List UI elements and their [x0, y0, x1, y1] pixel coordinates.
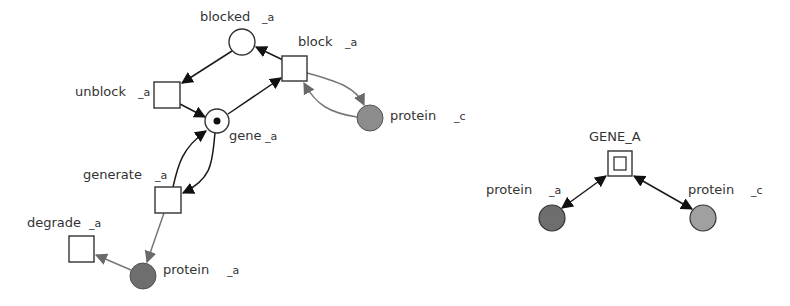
transition-suffix: _a — [137, 86, 150, 99]
token-icon — [214, 118, 221, 125]
place-label: gene — [229, 128, 262, 143]
transition-suffix: _a — [154, 169, 167, 182]
place-circle — [229, 29, 255, 55]
transition-generate-a[interactable]: generate _a — [83, 167, 181, 213]
transition-suffix: _a — [88, 217, 101, 230]
protein-node-protein-a[interactable]: protein _a — [486, 182, 565, 231]
arc-gene-to-generate — [183, 133, 215, 193]
place-blocked-a[interactable]: blocked _a — [200, 9, 274, 55]
gene-label: GENE_A — [589, 129, 641, 144]
petri-net-diagram: blocked _a gene _a protein _c protein _a… — [0, 0, 790, 306]
gene-node-gene-a[interactable]: GENE_A — [589, 129, 641, 176]
protein-label: protein — [486, 182, 532, 197]
place-suffix: _a — [264, 130, 277, 143]
place-label: protein — [390, 108, 436, 123]
place-protein-a[interactable]: protein _a — [130, 262, 239, 289]
transition-box — [69, 236, 94, 262]
transition-suffix: _a — [344, 36, 357, 49]
protein-node-protein-c[interactable]: protein _c — [688, 182, 763, 231]
place-label: protein — [163, 262, 209, 277]
place-suffix: _a — [226, 264, 239, 277]
transition-label: unblock — [75, 84, 126, 99]
place-circle — [357, 105, 383, 131]
transition-unblock-a[interactable]: unblock _a — [75, 82, 180, 108]
transition-box — [154, 82, 180, 108]
place-protein-c[interactable]: protein _c — [357, 105, 466, 131]
transition-box — [282, 56, 307, 81]
protein-circle — [539, 205, 565, 231]
edge-gene-protein-c — [634, 176, 692, 209]
arc-block-to-blocked — [256, 47, 283, 60]
protein-suffix: _c — [750, 184, 763, 197]
transition-label: block — [298, 34, 333, 49]
arc-generate-to-gene — [173, 131, 206, 187]
transition-box — [155, 187, 181, 213]
transition-label: degrade — [27, 215, 81, 230]
arc-blocked-to-unblock — [182, 51, 232, 83]
transition-block-a[interactable]: block _a — [282, 34, 357, 81]
arc-generate-to-protein-a — [147, 213, 164, 262]
transition-label: generate — [83, 167, 142, 182]
protein-suffix: _a — [548, 184, 561, 197]
arc-block-to-protein-c — [307, 73, 364, 105]
place-label: blocked — [200, 9, 250, 24]
place-suffix: _c — [453, 110, 466, 123]
arc-gene-to-block — [228, 78, 281, 114]
left-network-arcs — [96, 47, 364, 270]
place-gene-a[interactable]: gene _a — [205, 109, 277, 143]
place-suffix: _a — [261, 11, 274, 24]
transition-degrade-a[interactable]: degrade _a — [27, 215, 101, 262]
protein-label: protein — [688, 182, 734, 197]
place-circle — [130, 263, 156, 289]
gene-inner-box — [614, 157, 626, 170]
arc-unblock-to-gene — [180, 104, 205, 117]
arc-protein-a-to-degrade — [96, 255, 131, 270]
right-network-edges — [562, 176, 692, 209]
protein-circle — [690, 205, 716, 231]
edge-gene-protein-a — [562, 176, 606, 208]
